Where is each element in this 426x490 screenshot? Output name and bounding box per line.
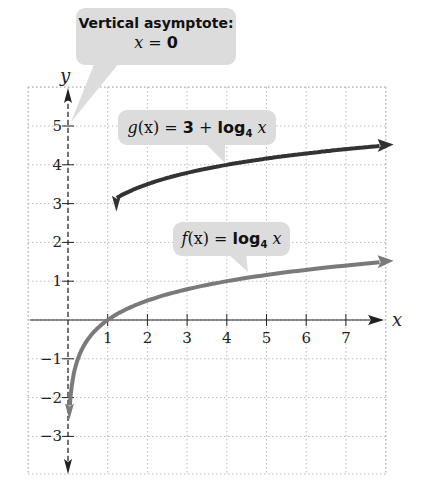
- f-var: x: [267, 229, 281, 248]
- g-const: 3: [183, 118, 194, 137]
- y-tick-label: 3: [52, 195, 62, 213]
- g-function-label: g(x) = 3 + log4 x: [118, 110, 276, 145]
- eq-val: 0: [167, 33, 178, 52]
- x-tick-label: 4: [222, 329, 232, 347]
- g-eq: =: [159, 118, 183, 137]
- f-eq: =: [209, 229, 233, 248]
- g-log: log: [218, 118, 246, 137]
- x-tick-label: 3: [182, 329, 192, 347]
- g-curve-arrow-right: [378, 139, 394, 152]
- g-curve: [117, 146, 380, 198]
- grid: [28, 87, 386, 474]
- asymptote-title: Vertical asymptote:: [76, 14, 236, 33]
- y-tick-label: 5: [52, 117, 62, 135]
- g-var: x: [252, 118, 266, 137]
- x-tick-label: 5: [262, 329, 272, 347]
- g-arg: (x): [138, 118, 160, 137]
- y-axis-label: y: [59, 65, 71, 86]
- f-function-label: f(x) = log4 x: [173, 222, 290, 256]
- asymptote-callout: Vertical asymptote: x = 0: [76, 8, 236, 65]
- f-curve-arrow-down: [65, 403, 74, 419]
- x-tick-label: 6: [301, 329, 311, 347]
- y-tick-label: −1: [40, 350, 62, 368]
- x-axis-label: x: [392, 309, 402, 330]
- asymptote-equation: x = 0: [76, 33, 236, 52]
- g-plus: +: [194, 118, 218, 137]
- f-log: log: [233, 229, 261, 248]
- eq-sign: =: [143, 33, 167, 52]
- y-tick-label: 1: [52, 272, 62, 290]
- f-callout-pointer: [228, 254, 248, 272]
- x-tick-label: 2: [143, 329, 153, 347]
- g-name: g: [127, 118, 137, 137]
- y-tick-label: 2: [52, 233, 62, 251]
- y-tick-label: −3: [40, 427, 62, 445]
- axes: [30, 88, 384, 474]
- g-callout-pointer: [205, 143, 225, 163]
- f-arg: (x): [187, 229, 209, 248]
- y-tick-label: −2: [40, 389, 62, 407]
- x-tick-label: 7: [341, 329, 351, 347]
- curves: [65, 139, 394, 419]
- y-tick-label: 4: [52, 156, 62, 174]
- f-curve-arrow-right: [378, 255, 394, 268]
- eq-var: x: [134, 33, 143, 52]
- asymptote-callout-pointer: [71, 62, 120, 122]
- x-tick-label: 1: [103, 329, 113, 347]
